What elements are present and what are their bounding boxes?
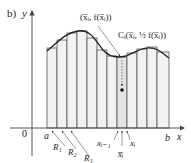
a-label: a <box>44 130 49 141</box>
y-axis-label: y <box>21 7 27 19</box>
x-i-label: xᵢ <box>129 138 136 148</box>
x-prev-label: xᵢ₋₁ <box>96 138 111 148</box>
top-point-label: (x̅ᵢ, f(x̅ᵢ)) <box>80 12 111 22</box>
b-label: b <box>165 132 170 143</box>
centroid-point <box>120 88 124 92</box>
strip-label-r1: R₁ <box>52 142 62 152</box>
centroid-label: Cᵢ(x̅ᵢ, ½ f(x̅ᵢ)) <box>118 30 166 40</box>
strip-label-r3: R₃ <box>83 153 93 163</box>
panel-label: b) <box>7 7 17 20</box>
strips <box>47 31 169 128</box>
diagram-canvas: b) y x 0 a b (x̅ᵢ, f(x̅ᵢ)) Cᵢ(x̅ᵢ, ½ f(x… <box>0 0 191 163</box>
origin-label: 0 <box>22 128 27 139</box>
strip-label-r2: R₂ <box>67 147 77 157</box>
x-bar-label: x̅ᵢ <box>117 149 124 159</box>
x-axis-label: x <box>176 131 182 142</box>
